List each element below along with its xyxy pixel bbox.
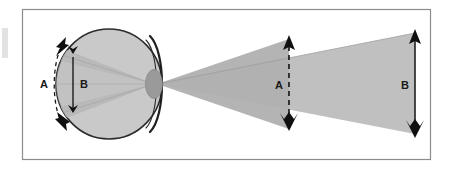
lens-pupil bbox=[146, 70, 163, 99]
figure-root: A B A B bbox=[0, 0, 450, 174]
retinal-extent-B-label: B bbox=[80, 78, 88, 90]
object-B-label: B bbox=[401, 79, 409, 91]
visual-angle-diagram: A B A B bbox=[0, 0, 450, 174]
retinal-extent-A-label: A bbox=[40, 78, 48, 90]
scan-artifact bbox=[2, 28, 8, 58]
object-A-label: A bbox=[275, 79, 283, 91]
